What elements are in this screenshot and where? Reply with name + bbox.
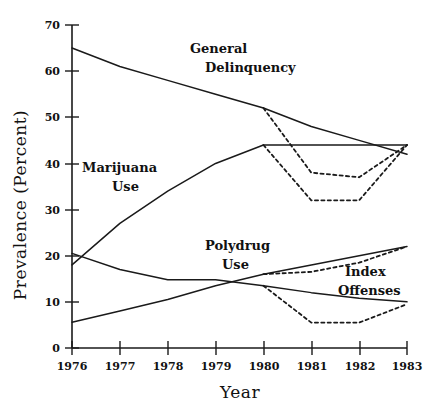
x-tick-label-1981: 1981 [297, 360, 328, 373]
label-polydrug-use-line2: Use [222, 257, 249, 272]
label-general-delinquency-line1: General [190, 41, 247, 56]
y-tick-label-40: 40 [45, 158, 61, 171]
y-tick-label-30: 30 [45, 204, 61, 217]
x-tick-label-1979: 1979 [201, 360, 232, 373]
x-tick-label-1980: 1980 [249, 360, 280, 373]
y-tick-label-70: 70 [45, 19, 61, 32]
x-tick-label-1978: 1978 [153, 360, 184, 373]
x-tick-label-1976: 1976 [57, 360, 88, 373]
y-tick-label-20: 20 [45, 250, 61, 263]
label-general-delinquency-line2: Delinquency [205, 60, 296, 75]
x-axis-title: Year [219, 382, 260, 402]
y-tick-label-10: 10 [45, 296, 61, 309]
chart-container: 0 10 20 30 40 50 60 70 1976 1977 1978 19… [0, 0, 440, 410]
label-marijuana-use-line1: Marijuana [82, 160, 158, 175]
label-marijuana-use-line2: Use [112, 179, 139, 194]
x-tick-label-1983: 1983 [392, 360, 423, 373]
label-polydrug-use-line1: Polydrug [205, 238, 270, 253]
y-tick-label-50: 50 [45, 111, 61, 124]
label-index-offenses-line2: Offenses [338, 283, 401, 298]
label-index-offenses-line1: Index [345, 264, 386, 279]
y-tick-label-60: 60 [45, 65, 61, 78]
y-axis-title: Prevalence (Percent) [10, 110, 30, 300]
y-tick-label-0: 0 [52, 342, 60, 355]
line-chart: 0 10 20 30 40 50 60 70 1976 1977 1978 19… [0, 0, 440, 410]
x-tick-label-1977: 1977 [105, 360, 136, 373]
x-tick-label-1982: 1982 [345, 360, 376, 373]
